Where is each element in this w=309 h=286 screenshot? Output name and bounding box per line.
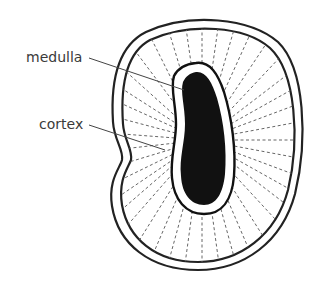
cortex-label: cortex — [39, 117, 83, 131]
medulla-label: medulla — [26, 50, 82, 64]
kidney-diagram — [0, 0, 309, 286]
